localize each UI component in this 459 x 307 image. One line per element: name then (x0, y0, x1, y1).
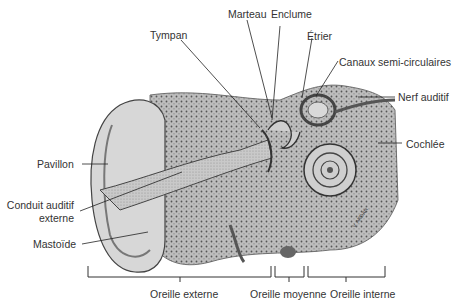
label-mastoide: Mastoïde (33, 238, 76, 250)
label-conduit-externe: externe (39, 212, 74, 224)
label-enclume: Enclume (271, 8, 312, 20)
label-marteau: Marteau (228, 8, 267, 20)
section-oreille-moyenne: Oreille moyenne (250, 288, 326, 300)
label-cochlee: Cochlée (406, 138, 445, 150)
label-etrier: Étrier (307, 30, 332, 42)
section-oreille-externe: Oreille externe (150, 288, 218, 300)
ear-anatomy-illustration: V. ARDAN (0, 0, 459, 307)
label-canaux-semi-circulaires: Canaux semi-circulaires (339, 56, 451, 68)
label-nerf-auditif: Nerf auditif (398, 91, 449, 103)
section-oreille-interne: Oreille interne (330, 288, 395, 300)
label-pavillon: Pavillon (37, 158, 74, 170)
label-tympan: Tympan (150, 29, 187, 41)
label-conduit-auditif: Conduit auditif (7, 199, 74, 211)
